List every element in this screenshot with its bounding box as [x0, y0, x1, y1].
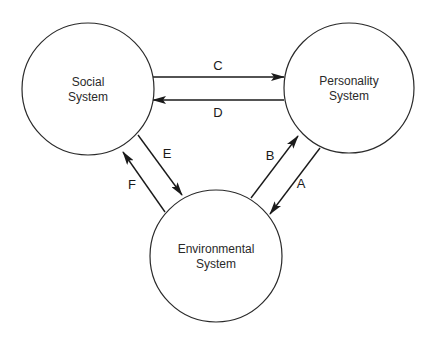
edge-B: B: [251, 136, 298, 198]
edge-label: F: [128, 177, 136, 192]
node-label-line2: System: [196, 257, 236, 271]
node-circle: [22, 23, 154, 155]
edge-label: A: [297, 176, 306, 191]
systems-diagram: CDEFBA SocialSystemPersonalitySystemEnvi…: [0, 0, 434, 338]
arrow-icon: [138, 135, 182, 195]
edge-label: E: [163, 146, 172, 161]
arrow-icon: [251, 136, 298, 198]
node-environmental: EnvironmentalSystem: [150, 190, 282, 322]
edge-E: E: [138, 135, 182, 195]
edge-A: A: [270, 148, 320, 214]
node-personality: PersonalitySystem: [284, 23, 414, 153]
edge-label: D: [213, 105, 222, 120]
arrow-icon: [270, 148, 320, 214]
node-label-line2: System: [68, 90, 108, 104]
node-social: SocialSystem: [22, 23, 154, 155]
edge-label: B: [266, 148, 275, 163]
node-circle: [284, 23, 414, 153]
edge-label: C: [213, 58, 222, 73]
node-circle: [150, 190, 282, 322]
edge-F: F: [123, 152, 165, 212]
node-label-line2: System: [329, 89, 369, 103]
edge-D: D: [153, 100, 284, 120]
node-label-line1: Social: [72, 75, 105, 89]
edge-C: C: [152, 58, 284, 77]
node-label-line1: Environmental: [178, 242, 255, 256]
node-label-line1: Personality: [319, 74, 378, 88]
